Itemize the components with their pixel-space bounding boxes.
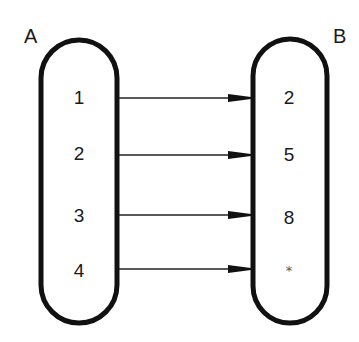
arrowhead-icon <box>228 151 251 159</box>
set-a-label: A <box>24 25 38 47</box>
set-b-element-1: 2 <box>284 87 295 108</box>
set-b-oval <box>253 39 327 323</box>
arrow-3-to-8 <box>119 211 251 219</box>
set-b-element-3: 8 <box>284 207 295 228</box>
arrowhead-icon <box>228 94 251 102</box>
set-a-element-1: 1 <box>74 87 85 108</box>
set-a: A 1 2 3 4 <box>24 25 117 323</box>
arrowhead-icon <box>228 265 251 273</box>
set-a-element-4: 4 <box>74 260 85 281</box>
arrow-4-to-star <box>119 265 251 273</box>
set-b-element-2: 5 <box>284 144 295 165</box>
arrow-2-to-5 <box>119 151 251 159</box>
set-a-element-3: 3 <box>74 205 85 226</box>
set-a-element-2: 2 <box>74 143 85 164</box>
arrowhead-icon <box>228 211 251 219</box>
set-b-element-4: * <box>286 263 293 278</box>
arrow-1-to-2 <box>119 94 251 102</box>
mapping-diagram: A 1 2 3 4 B 2 5 8 * <box>0 0 359 342</box>
set-b: B 2 5 8 * <box>253 25 346 323</box>
mapping-arrows <box>119 94 251 273</box>
set-b-label: B <box>333 25 346 47</box>
